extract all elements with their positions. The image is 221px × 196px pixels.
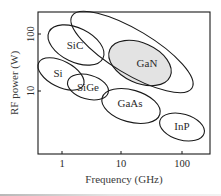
x-tick-label-10: 10: [116, 158, 127, 169]
y-tick-label-10: 10: [25, 86, 36, 97]
rf-power-frequency-diagram: GaN SiC Si SiGe GaAs InP 1 10 100 100 10…: [0, 0, 221, 196]
bottom-rule: [0, 194, 221, 196]
label-inp: InP: [174, 120, 189, 132]
y-tick-label-100: 100: [25, 26, 36, 42]
label-sic: SiC: [67, 39, 84, 51]
y-axis-title: RF power (W): [8, 51, 21, 115]
label-sige: SiGe: [77, 81, 99, 93]
x-tick-label-100: 100: [174, 158, 190, 169]
x-tick-label-1: 1: [59, 158, 64, 169]
x-axis-title: Frequency (GHz): [85, 173, 163, 186]
label-si: Si: [53, 67, 62, 79]
label-gaas: GaAs: [117, 97, 142, 109]
label-gan: GaN: [137, 57, 158, 69]
plot-frame: [38, 12, 210, 154]
